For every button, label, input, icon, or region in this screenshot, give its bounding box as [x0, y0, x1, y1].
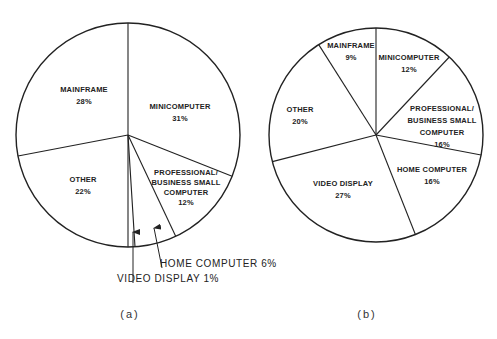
pie-b-minicomputer-value: 12%: [401, 65, 417, 74]
pie-b-video-value: 27%: [335, 191, 351, 200]
pie-b-professional-label-2: BUSINESS SMALL: [407, 116, 476, 125]
pie-a-mainframe-label: MAINFRAME: [60, 85, 108, 94]
pie-b-minicomputer-label: MINICOMPUTER: [378, 53, 440, 62]
pie-b-home-value: 16%: [424, 177, 440, 186]
pie-a-minicomputer-label: MINICOMPUTER: [149, 102, 211, 111]
pie-a-caption: (a): [120, 308, 139, 320]
pie-a-video-callout: VIDEO DISPLAY 1%: [117, 273, 219, 284]
pie-a-professional-label-2: BUSINESS SMALL: [151, 178, 220, 187]
pie-b-caption: (b): [357, 308, 376, 320]
pie-a-professional-value: 12%: [178, 198, 194, 207]
figure-canvas: MINICOMPUTER 31% MAINFRAME 28% OTHER 22%…: [0, 0, 497, 339]
pie-b-video-label: VIDEO DISPLAY: [313, 179, 373, 188]
pie-a-mainframe-value: 28%: [76, 97, 92, 106]
pie-b-other-value: 20%: [292, 117, 308, 126]
pie-b-home-label: HOME COMPUTER: [397, 165, 467, 174]
pie-b-professional-value: 16%: [434, 140, 450, 149]
pie-chart-a: MINICOMPUTER 31% MAINFRAME 28% OTHER 22%…: [16, 23, 277, 320]
pie-a-other-value: 22%: [75, 187, 91, 196]
pie-b-professional-label-1: PROFESSIONAL/: [410, 104, 475, 113]
pie-b-other-label: OTHER: [286, 105, 314, 114]
pie-a-minicomputer-value: 31%: [172, 114, 188, 123]
pie-b-mainframe-value: 9%: [345, 53, 356, 62]
pie-b-mainframe-label: MAINFRAME: [327, 41, 375, 50]
pie-a-divider: [128, 135, 135, 247]
pie-a-divider: [18, 135, 128, 156]
pie-chart-b: MAINFRAME 9% MINICOMPUTER 12% PROFESSION…: [269, 28, 483, 320]
pie-a-professional-label-3: COMPUTER: [164, 188, 209, 197]
pie-b-professional-label-3: COMPUTER: [420, 128, 465, 137]
pie-b-divider: [376, 135, 415, 235]
pie-a-professional-label-1: PROFESSIONAL/: [154, 168, 219, 177]
pie-b-divider: [272, 135, 376, 162]
pie-b-divider: [376, 135, 481, 155]
pie-a-home-callout: HOME COMPUTER 6%: [160, 258, 277, 269]
pie-a-other-label: OTHER: [69, 175, 97, 184]
